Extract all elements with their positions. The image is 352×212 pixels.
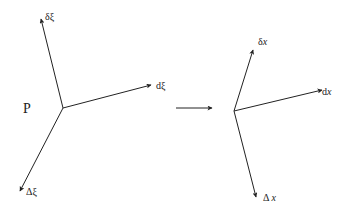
label-delta-xi: δξ (45, 12, 54, 22)
label-d-xi: dξ (156, 81, 165, 91)
vector-d-xi (63, 85, 151, 108)
label-delta-x: δx (258, 37, 267, 47)
label-Delta-x-prefix: Δ (263, 192, 269, 203)
label-Delta-xi: Δξ (26, 187, 37, 197)
label-Delta-x-var: x (271, 192, 275, 203)
point-label-p: P (23, 102, 31, 116)
vector-d-x (234, 90, 322, 111)
vector-delta-x (234, 50, 253, 111)
label-Delta-x: Δ x (263, 193, 276, 203)
label-d-x: dx (322, 87, 331, 97)
vector-drawing (0, 0, 352, 212)
vector-Delta-x (234, 111, 256, 197)
diagram: P δξ dξ Δξ δx dx Δ x (0, 0, 352, 212)
label-d-x-var: x (327, 86, 331, 97)
vector-delta-xi (41, 19, 63, 108)
vector-Delta-xi (20, 108, 63, 191)
label-delta-x-var: x (263, 36, 267, 47)
